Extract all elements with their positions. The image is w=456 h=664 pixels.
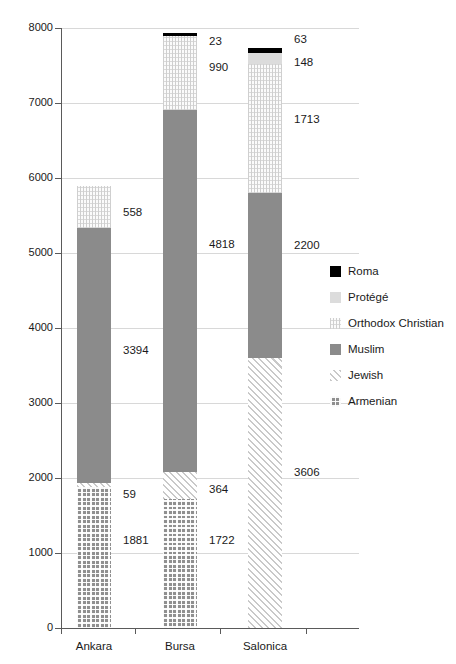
legend-label-jewish: Jewish	[348, 369, 383, 381]
bar-ankara[interactable]	[77, 186, 111, 628]
x-axis-line	[61, 628, 359, 629]
x-tick-label-salonica: Salonica	[220, 640, 310, 652]
segment-ankara-muslim[interactable]	[77, 228, 111, 483]
value-label-ankara-muslim: 3394	[123, 344, 149, 356]
segment-salonica-jewish[interactable]	[248, 358, 282, 628]
y-tick-label-3000: 3000	[7, 397, 53, 408]
y-axis-line	[61, 28, 62, 628]
legend-label-protege: Protégé	[348, 291, 388, 303]
y-tick-label-5000: 5000	[7, 247, 53, 258]
x-tick-ankara	[135, 628, 136, 634]
value-label-ankara-jewish: 59	[123, 488, 136, 500]
legend-label-muslim: Muslim	[348, 343, 384, 355]
x-tick-label-ankara: Ankara	[49, 640, 139, 652]
value-label-bursa-jewish: 364	[209, 483, 228, 495]
value-label-bursa-muslim: 4818	[209, 238, 235, 250]
value-label-salonica-orthodox: 1713	[294, 113, 320, 125]
chart-legend: Roma Protégé Orthodox Christian Muslim J…	[330, 258, 456, 414]
x-tick-left-edge	[61, 628, 62, 634]
value-label-ankara-armenian: 1881	[123, 534, 149, 546]
segment-salonica-orthodox[interactable]	[248, 64, 282, 192]
legend-item-protege[interactable]: Protégé	[330, 284, 456, 310]
value-label-bursa-roma: 23	[209, 35, 222, 47]
legend-item-armenian[interactable]: Armenian	[330, 388, 456, 414]
legend-label-orthodox-christian: Orthodox Christian	[348, 317, 444, 329]
value-label-salonica-muslim: 2200	[294, 239, 320, 251]
y-tick-label-8000: 8000	[7, 22, 53, 33]
jewish-swatch-icon	[330, 370, 341, 381]
y-tick-label-7000: 7000	[7, 97, 53, 108]
bar-bursa[interactable]	[163, 34, 197, 628]
y-tick-label-1000: 1000	[7, 547, 53, 558]
segment-ankara-armenian[interactable]	[77, 487, 111, 628]
roma-swatch-icon	[330, 266, 341, 277]
muslim-swatch-icon	[330, 344, 341, 355]
x-tick-label-bursa: Bursa	[135, 640, 225, 652]
stacked-bar-chart: 8000 7000 6000 5000 4000 3000 2000 1000 …	[0, 0, 456, 664]
value-label-salonica-jewish: 3606	[294, 466, 320, 478]
protege-swatch-icon	[330, 292, 341, 303]
gridline-6000	[62, 178, 359, 179]
legend-item-jewish[interactable]: Jewish	[330, 362, 456, 388]
segment-bursa-orthodox[interactable]	[163, 36, 197, 110]
value-label-bursa-orthodox: 990	[209, 61, 228, 73]
segment-bursa-jewish[interactable]	[163, 472, 197, 499]
value-label-bursa-armenian: 1722	[209, 534, 235, 546]
segment-bursa-armenian[interactable]	[163, 499, 197, 628]
bar-salonica[interactable]	[248, 48, 282, 628]
value-label-ankara-orthodox: 558	[123, 206, 142, 218]
legend-item-orthodox-christian[interactable]: Orthodox Christian	[330, 310, 456, 336]
orthodox-christian-swatch-icon	[330, 318, 341, 329]
y-tick-label-4000: 4000	[7, 322, 53, 333]
gridline-8000	[62, 28, 359, 29]
legend-label-roma: Roma	[348, 265, 379, 277]
segment-salonica-protege[interactable]	[248, 53, 282, 64]
segment-bursa-muslim[interactable]	[163, 110, 197, 471]
gridline-7000	[62, 103, 359, 104]
value-label-salonica-protege: 148	[294, 56, 313, 68]
segment-ankara-jewish[interactable]	[77, 483, 111, 487]
legend-label-armenian: Armenian	[348, 395, 397, 407]
armenian-swatch-icon	[330, 396, 341, 407]
y-tick-label-2000: 2000	[7, 472, 53, 483]
legend-item-muslim[interactable]: Muslim	[330, 336, 456, 362]
segment-ankara-orthodox[interactable]	[77, 186, 111, 228]
x-tick-bursa	[220, 628, 221, 634]
legend-item-roma[interactable]: Roma	[330, 258, 456, 284]
plot-area: Ankara Bursa Salonica 558 3394 59 1881 2…	[61, 28, 359, 628]
y-tick-label-6000: 6000	[7, 172, 53, 183]
segment-salonica-roma[interactable]	[248, 48, 282, 53]
segment-bursa-roma[interactable]	[163, 33, 197, 36]
segment-salonica-muslim[interactable]	[248, 193, 282, 358]
y-tick-label-0: 0	[7, 622, 53, 633]
x-tick-salonica	[306, 628, 307, 634]
value-label-salonica-roma: 63	[294, 33, 307, 45]
